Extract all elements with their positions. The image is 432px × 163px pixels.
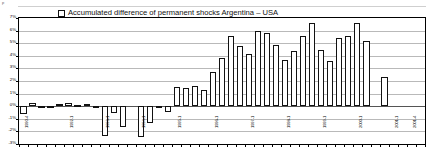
plot-inner [19,18,425,144]
y-tick-mark [16,81,19,82]
x-tick-mark [344,144,345,147]
top-divider [18,6,426,7]
x-tick-mark [217,144,218,147]
x-tick-mark [208,144,209,147]
legend-label: Accumulated difference of permanent shoc… [68,9,278,17]
y-tick-mark [16,43,19,44]
bar [111,106,117,113]
legend-swatch-icon [58,10,65,17]
bar [38,106,44,108]
x-tick-mark [335,144,336,147]
x-tick-mark [389,144,390,147]
x-tick-mark [326,144,327,147]
y-tick-mark [16,119,19,120]
bar [47,106,53,108]
x-tick-mark [190,144,191,147]
x-tick-mark [136,144,137,147]
x-tick-label: 1997-1 [251,116,255,128]
bar [20,106,26,114]
bar [210,72,216,107]
x-tick-label: 1995-1 [178,116,182,128]
x-tick-label: 1992-1 [70,116,74,128]
bar [228,36,234,106]
bar [264,33,270,106]
x-tick-mark [398,144,399,147]
x-tick-label: 2001-4 [413,116,417,128]
bar [56,104,62,106]
corner-annotation: p [2,1,4,5]
x-tick-mark [281,144,282,147]
bar [318,50,324,106]
x-tick-mark [308,144,309,147]
y-tick-mark [16,106,19,107]
x-tick-mark [109,144,110,147]
chart-legend: Accumulated difference of permanent shoc… [56,9,280,17]
bar [183,88,189,106]
bar [345,36,351,106]
x-tick-label: 2000-1 [359,116,363,128]
x-tick-mark [416,144,417,147]
bar [65,103,71,106]
y-tick-mark [16,56,19,57]
bar [120,106,126,127]
chart-container: p 7%6%5%4%3%2%1%0%-1%-2%-3% 1990-41992-1… [0,0,432,163]
y-tick-mark [16,68,19,69]
x-tick-label: 1998-1 [287,116,291,128]
y-tick-mark [16,31,19,32]
y-tick-label: -3% [8,141,16,145]
x-tick-label: 1999-1 [323,116,327,128]
bar [156,106,162,108]
x-tick-mark [37,144,38,147]
x-tick-mark [407,144,408,147]
x-tick-mark [118,144,119,147]
x-tick-mark [272,144,273,147]
bar [93,106,99,108]
x-tick-mark [362,144,363,147]
x-tick-mark [254,144,255,147]
x-tick-mark [64,144,65,147]
y-tick-label: -1% [8,116,16,120]
bar [282,60,288,107]
plot-area [18,17,426,145]
y-tick-mark [16,94,19,95]
x-tick-mark [236,144,237,147]
y-tick-mark [16,131,19,132]
bar [219,58,225,107]
y-axis-labels: 7%6%5%4%3%2%1%0%-1%-2%-3% [0,17,16,145]
x-tick-mark [19,144,20,147]
x-tick-mark [91,144,92,147]
x-tick-mark [172,144,173,147]
y-tick-mark [16,18,19,19]
bar [174,87,180,107]
x-tick-mark [82,144,83,147]
x-tick-mark [73,144,74,147]
x-tick-label: 1996-1 [215,116,219,128]
bar [192,86,198,106]
gridline [19,31,425,32]
x-tick-mark [55,144,56,147]
x-tick-mark [245,144,246,147]
bar [327,61,333,106]
bar [273,45,279,106]
x-tick-mark [425,144,426,147]
x-tick-mark [380,144,381,147]
gridline [19,119,425,120]
x-tick-label: 1990-4 [25,116,29,128]
x-tick-mark [353,144,354,147]
x-tick-mark [181,144,182,147]
bar [381,77,387,106]
x-tick-mark [317,144,318,147]
bar [246,54,252,106]
bar [29,103,35,106]
bar [300,36,306,106]
bar [147,106,153,123]
x-tick-mark [299,144,300,147]
x-tick-mark [199,144,200,147]
x-tick-mark [263,144,264,147]
x-tick-label: 2001-1 [395,116,399,128]
x-tick-mark [227,144,228,147]
x-tick-mark [46,144,47,147]
bar [354,23,360,106]
bar [336,38,342,107]
x-tick-mark [100,144,101,147]
